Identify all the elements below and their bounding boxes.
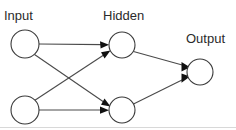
hidden-node-1[interactable] [109,32,135,58]
edge-line-i1-h1 [39,44,103,45]
edge-h1-o1 [134,52,191,72]
edge-line-h2-o1 [134,79,185,104]
hidden-node-2[interactable] [109,97,135,123]
node-group-input [11,30,39,124]
arrow-head-i1-h1 [100,41,109,48]
edge-group-hidden-to-output [134,52,191,105]
arrow-head-i2-h2 [100,107,109,114]
network-canvas: Input Hidden Output [0,0,236,130]
arrow-head-i2-h1 [101,50,111,58]
layer-label-hidden: Hidden [103,8,144,23]
input-node-2[interactable] [11,96,39,124]
output-node-1[interactable] [187,59,213,85]
arrow-head-i1-h2 [101,99,111,107]
edge-i1-h1 [39,41,109,48]
layer-label-input: Input [4,8,33,23]
input-node-1[interactable] [11,30,39,58]
edge-line-h1-o1 [134,52,185,66]
edge-h2-o1 [134,73,191,104]
node-group-hidden [109,32,135,123]
node-group-output [187,59,213,85]
edge-i2-h2 [39,107,109,114]
edge-i2-h1 [35,50,111,100]
layer-label-output: Output [186,31,225,46]
edge-group-input-to-hidden [35,41,111,114]
neural-network-diagram: Input Hidden Output [0,0,236,130]
edge-i1-h2 [35,55,111,107]
